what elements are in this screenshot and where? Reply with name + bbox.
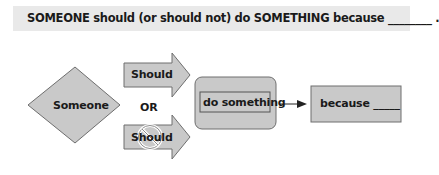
or-label: OR	[140, 101, 157, 114]
action-label: do something	[203, 96, 285, 109]
connector-arrowhead-icon	[297, 100, 307, 108]
should-label: Should	[131, 68, 173, 81]
should-not-label: Should	[131, 131, 173, 144]
reason-label: because _____	[320, 97, 400, 110]
someone-label: Someone	[53, 99, 109, 112]
